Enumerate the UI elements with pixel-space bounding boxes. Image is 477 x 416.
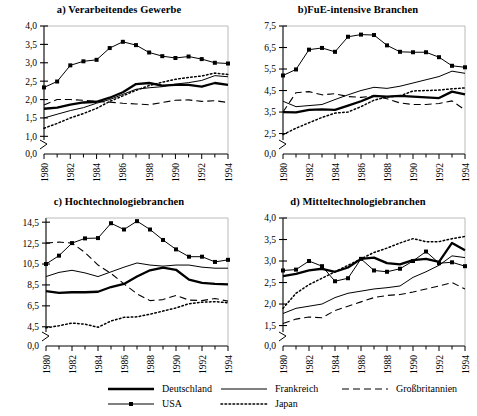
series-marker-usa xyxy=(200,255,204,259)
legend-key-grossbritannien xyxy=(340,381,390,396)
series-marker-usa xyxy=(44,262,48,266)
series-marker-usa xyxy=(411,50,415,54)
series-marker-usa xyxy=(450,64,454,68)
panel-a-title: a) Verarbeitendes Gewerbe xyxy=(0,4,238,15)
panel-d-plot: 0,01,52,02,53,03,54,01980198219841986198… xyxy=(239,210,477,386)
y-tick-label: 7,5 xyxy=(264,21,276,31)
x-tick-label: 1994 xyxy=(224,163,234,182)
y-tick-label: 3,5 xyxy=(25,40,37,50)
y-tick-label: 2,5 xyxy=(264,129,276,139)
x-tick-label: 1990 xyxy=(409,355,419,374)
series-marker-usa xyxy=(372,268,376,272)
series-marker-usa xyxy=(55,80,59,84)
y-tick-label: 5,5 xyxy=(264,64,276,74)
x-tick-label: 1980 xyxy=(279,355,289,374)
y-tick-label: 0,0 xyxy=(25,149,37,159)
series-marker-usa xyxy=(200,57,204,61)
x-tick-label: 1992 xyxy=(197,163,207,182)
series-marker-usa xyxy=(437,55,441,59)
series-marker-usa xyxy=(226,62,230,66)
y-tick-label: 4,5 xyxy=(264,86,276,96)
series-marker-usa xyxy=(161,238,165,242)
y-tick-label: 3,5 xyxy=(264,107,276,117)
series-marker-usa xyxy=(320,264,324,268)
panel-a-svg: 0,01,01,52,02,53,03,54,01980198219841986… xyxy=(0,18,238,196)
series-marker-usa xyxy=(333,50,337,54)
series-marker-usa xyxy=(174,247,178,251)
legend: Deutschland USA Frankreich Japan Großbri… xyxy=(0,381,477,416)
y-tick-label: 2,0 xyxy=(264,299,276,309)
series-marker-usa xyxy=(307,48,311,52)
x-tick-label: 1990 xyxy=(172,355,182,374)
panel-d-title: d) Mitteltechnologiebranchen xyxy=(239,196,477,207)
series-marker-usa xyxy=(57,254,61,258)
series-line-frankreich xyxy=(44,76,228,118)
axis-break-mark xyxy=(279,140,286,149)
series-marker-usa xyxy=(346,35,350,39)
panel-c-plot: 0,04,56,58,510,512,514,51980198219841986… xyxy=(0,210,238,386)
chart-panel-c: c) Hochtechnologiebranchen 0,04,56,58,51… xyxy=(0,196,238,386)
series-line-frankreich xyxy=(283,71,465,106)
x-tick-label: 1990 xyxy=(171,163,181,182)
x-tick-label: 1992 xyxy=(435,355,445,374)
y-tick-label: 2,5 xyxy=(264,278,276,288)
x-tick-label: 1980 xyxy=(42,355,52,374)
series-line-deutschland xyxy=(44,83,228,109)
series-marker-usa xyxy=(294,67,298,71)
x-tick-label: 1988 xyxy=(383,355,393,374)
series-marker-usa xyxy=(187,55,191,59)
x-tick-label: 1984 xyxy=(331,163,341,182)
legend-label-deutschland: Deutschland xyxy=(162,381,212,396)
series-marker-usa xyxy=(134,43,138,47)
panel-b-title: b)FuE-intensive Branchen xyxy=(239,4,477,15)
panel-b-plot: 0,02,53,54,55,56,57,51980198219841986198… xyxy=(239,18,477,196)
legend-label-japan: Japan xyxy=(275,396,298,411)
series-marker-usa xyxy=(109,221,113,225)
y-tick-label: 2,5 xyxy=(25,77,37,87)
x-tick-label: 1994 xyxy=(224,355,234,374)
series-marker-usa xyxy=(147,50,151,54)
chart-panel-b: b)FuE-intensive Branchen 0,02,53,54,55,5… xyxy=(239,4,477,196)
legend-label-grossbritannien: Großbritannien xyxy=(396,381,457,396)
series-marker-usa xyxy=(281,73,285,77)
y-tick-label: 1,0 xyxy=(25,132,37,142)
x-tick-label: 1988 xyxy=(383,163,393,182)
legend-key-japan xyxy=(219,396,269,411)
y-tick-label: 10,5 xyxy=(22,259,39,269)
series-marker-usa xyxy=(398,50,402,54)
series-marker-usa xyxy=(95,58,99,62)
series-marker-usa xyxy=(213,260,217,264)
x-tick-label: 1992 xyxy=(435,163,445,182)
series-marker-usa xyxy=(424,250,428,254)
series-marker-usa xyxy=(148,228,152,232)
series-line-japan xyxy=(46,302,228,328)
x-tick-label: 1994 xyxy=(461,163,471,182)
x-tick-label: 1984 xyxy=(94,355,104,374)
x-tick-label: 1982 xyxy=(305,163,315,182)
series-marker-usa xyxy=(281,268,285,272)
series-marker-usa xyxy=(68,63,72,67)
series-marker-usa xyxy=(346,276,350,280)
y-tick-label: 4,0 xyxy=(25,21,37,31)
x-tick-label: 1986 xyxy=(357,163,367,182)
panel-a-plot: 0,01,01,52,02,53,03,54,01980198219841986… xyxy=(0,18,238,196)
x-tick-label: 1984 xyxy=(92,163,102,182)
y-tick-label: 0,0 xyxy=(264,149,276,159)
chart-panel-a: a) Verarbeitendes Gewerbe 0,01,01,52,02,… xyxy=(0,4,238,196)
series-marker-usa xyxy=(424,50,428,54)
x-tick-label: 1986 xyxy=(357,355,367,374)
series-marker-usa xyxy=(359,33,363,37)
series-marker-usa xyxy=(81,59,85,63)
series-marker-usa xyxy=(160,54,164,58)
series-marker-usa xyxy=(307,259,311,263)
series-marker-usa xyxy=(294,268,298,272)
y-tick-label: 1,5 xyxy=(25,113,37,123)
y-tick-label: 3,5 xyxy=(264,235,276,245)
series-marker-usa xyxy=(333,279,337,283)
series-marker-usa xyxy=(213,61,217,65)
series-marker-usa xyxy=(372,33,376,37)
x-tick-label: 1992 xyxy=(198,355,208,374)
series-marker-usa xyxy=(122,228,126,232)
series-line-usa xyxy=(283,35,465,76)
x-tick-label: 1988 xyxy=(145,163,155,182)
